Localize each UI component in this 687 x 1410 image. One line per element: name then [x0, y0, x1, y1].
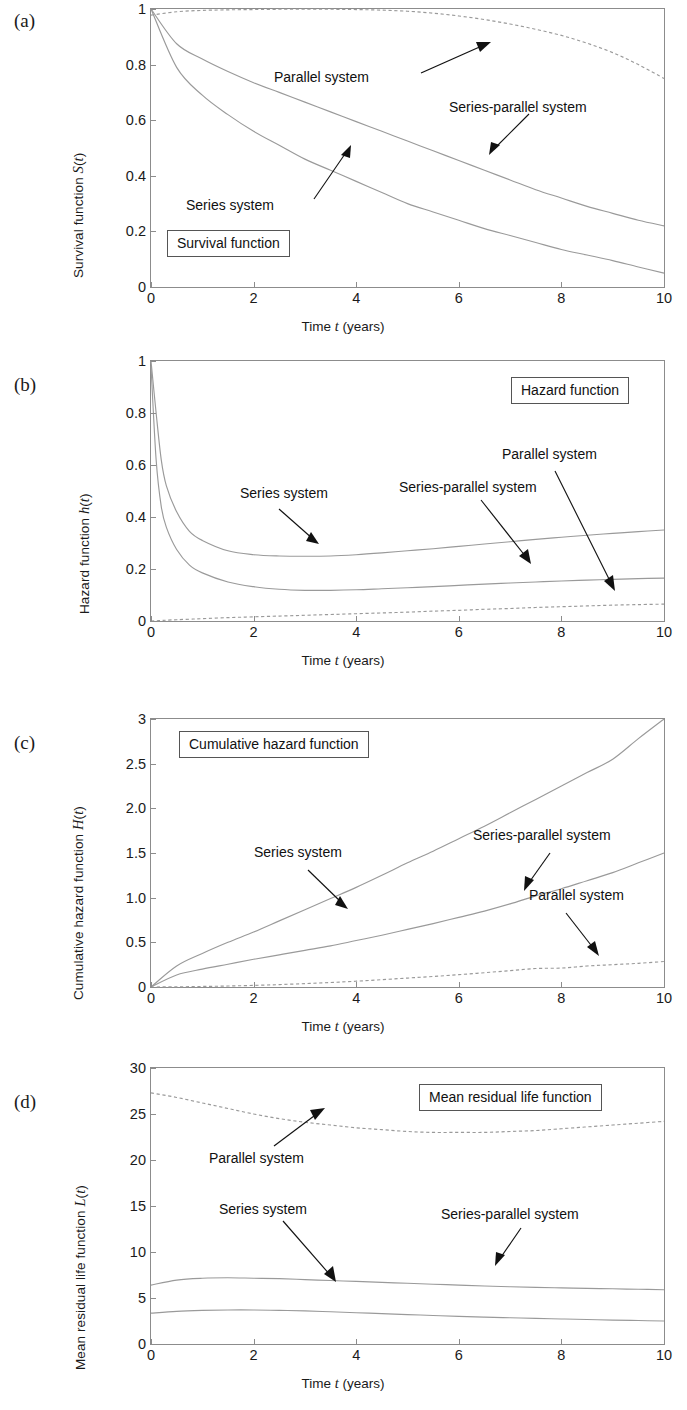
y-tick-mark	[151, 853, 156, 854]
x-tick-mark	[664, 1339, 665, 1344]
parallel-curve	[151, 962, 664, 987]
y-tick-label: 5	[138, 1290, 146, 1306]
y-tick-mark	[151, 1206, 156, 1207]
x-tick-label: 0	[147, 1347, 155, 1363]
y-tick-label: 10	[130, 1244, 146, 1260]
x-tick-mark	[151, 616, 152, 621]
x-tick-mark	[561, 616, 562, 621]
y-tick-mark	[151, 231, 156, 232]
x-tick-mark	[459, 616, 460, 621]
plot-area-d: Parallel system Series system Series-par…	[150, 1067, 665, 1345]
x-tick-label: 8	[557, 990, 565, 1006]
y-tick-label: 0.8	[126, 405, 146, 421]
x-tick-mark	[664, 982, 665, 987]
plot-area-c: Series system Series-parallel system Par…	[150, 718, 665, 988]
y-tick-mark	[151, 1068, 156, 1069]
y-tick-label: 0.4	[126, 168, 146, 184]
x-tick-mark	[254, 282, 255, 287]
annotation-series-b: Series system	[240, 485, 328, 501]
y-tick-label: 2.0	[126, 800, 146, 816]
y-tick-mark	[151, 176, 156, 177]
x-axis-label-b: Time t (years)	[301, 652, 384, 669]
annotation-arrow-series-parallel-b	[481, 500, 531, 564]
y-tick-mark	[151, 898, 156, 899]
y-tick-label: 0.2	[126, 561, 146, 577]
panel-d: (d) Mean residual life function L(t) Par…	[0, 1045, 687, 1410]
y-tick-label: 15	[130, 1198, 146, 1214]
y-tick-label: 0	[138, 279, 146, 295]
y-tick-label: 2.5	[126, 756, 146, 772]
x-tick-mark	[459, 282, 460, 287]
x-axis-label-a: Time t (years)	[301, 318, 384, 335]
x-tick-mark	[356, 616, 357, 621]
annotation-arrow-series-c	[308, 870, 348, 909]
y-tick-label: 3	[138, 711, 146, 727]
plot-area-b: Parallel system Series-parallel system S…	[150, 360, 665, 622]
x-tick-mark	[459, 1339, 460, 1344]
annotation-arrow-series-d	[283, 1221, 336, 1282]
x-tick-mark	[561, 1339, 562, 1344]
y-tick-label: 1.0	[126, 890, 146, 906]
y-tick-label: 0.5	[126, 934, 146, 950]
y-tick-mark	[151, 808, 156, 809]
x-tick-mark	[664, 616, 665, 621]
panel-a: (a) Survival function S(t) Parallel syst…	[0, 0, 687, 345]
x-tick-mark	[561, 982, 562, 987]
x-tick-label: 4	[352, 290, 360, 306]
series-curve	[151, 1310, 664, 1321]
x-tick-label: 6	[455, 624, 463, 640]
x-tick-label: 10	[656, 1347, 672, 1363]
series-curve	[151, 719, 664, 987]
x-tick-label: 0	[147, 624, 155, 640]
y-axis-label-c: Cumulative hazard function H(t)	[70, 806, 87, 1000]
y-tick-label: 1	[138, 1, 146, 17]
x-tick-mark	[151, 282, 152, 287]
y-tick-mark	[151, 987, 156, 988]
y-tick-label: 0.2	[126, 223, 146, 239]
y-tick-mark	[151, 719, 156, 720]
x-tick-mark	[356, 982, 357, 987]
x-tick-label: 2	[250, 990, 258, 1006]
panel-c: (c) Cumulative hazard function H(t) Seri…	[0, 700, 687, 1045]
y-tick-mark	[151, 517, 156, 518]
y-tick-label: 0.6	[126, 457, 146, 473]
y-tick-label: 1	[138, 353, 146, 369]
y-tick-label: 30	[130, 1060, 146, 1076]
x-tick-label: 6	[455, 290, 463, 306]
y-tick-label: 0.6	[126, 112, 146, 128]
y-tick-mark	[151, 465, 156, 466]
legend-box-d: Mean residual life function	[419, 1084, 602, 1111]
x-tick-label: 4	[352, 624, 360, 640]
y-tick-mark	[151, 621, 156, 622]
x-tick-label: 10	[656, 290, 672, 306]
y-tick-mark	[151, 1344, 156, 1345]
y-tick-mark	[151, 9, 156, 10]
annotation-series-parallel-d: Series-parallel system	[441, 1206, 579, 1222]
annotation-arrow-parallel-c	[566, 913, 599, 956]
annotation-arrow-series-a	[314, 145, 351, 199]
x-tick-mark	[356, 282, 357, 287]
y-tick-mark	[151, 1252, 156, 1253]
annotation-parallel-d: Parallel system	[209, 1150, 304, 1166]
x-tick-mark	[459, 982, 460, 987]
x-tick-mark	[151, 1339, 152, 1344]
x-tick-label: 10	[656, 624, 672, 640]
annotation-series-a: Series system	[186, 197, 274, 213]
annotation-parallel-c: Parallel system	[529, 887, 624, 903]
y-tick-label: 25	[130, 1106, 146, 1122]
y-tick-label: 0.8	[126, 57, 146, 73]
annotation-parallel-b: Parallel system	[502, 446, 597, 462]
annotation-arrow-parallel-a	[421, 42, 491, 73]
x-tick-label: 2	[250, 624, 258, 640]
panel-label-a: (a)	[14, 10, 35, 32]
x-tick-label: 2	[250, 290, 258, 306]
parallel-curve	[151, 604, 664, 621]
x-tick-mark	[151, 982, 152, 987]
x-tick-label: 6	[455, 990, 463, 1006]
panel-label-d: (d)	[14, 1091, 36, 1113]
y-tick-label: 0	[138, 979, 146, 995]
panel-b: (b) Hazard function h(t) Parallel system…	[0, 352, 687, 692]
y-axis-label-b: Hazard function h(t)	[76, 493, 93, 614]
y-tick-mark	[151, 287, 156, 288]
y-tick-mark	[151, 361, 156, 362]
